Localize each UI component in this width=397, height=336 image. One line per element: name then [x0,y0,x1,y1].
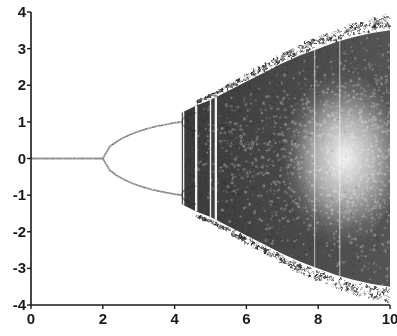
y-tick-label: 0 [0,151,26,166]
y-tick-label: -1 [0,187,26,202]
x-tick-label: 8 [305,311,331,326]
y-tick-label: 4 [0,4,26,19]
bifurcation-plot-canvas [0,0,397,336]
x-tick-label: 6 [233,311,259,326]
y-tick-label: -2 [0,224,26,239]
y-tick-label: 3 [0,41,26,56]
y-tick-label: 1 [0,114,26,129]
x-tick-label: 2 [90,311,116,326]
y-tick-label: -4 [0,297,26,312]
bifurcation-diagram-figure: quilting effects can be seen in explaini… [0,0,397,336]
x-tick-label: 10 [377,311,397,326]
x-tick-label: 0 [18,311,44,326]
y-tick-label: -3 [0,260,26,275]
x-tick-label: 4 [162,311,188,326]
y-tick-label: 2 [0,77,26,92]
